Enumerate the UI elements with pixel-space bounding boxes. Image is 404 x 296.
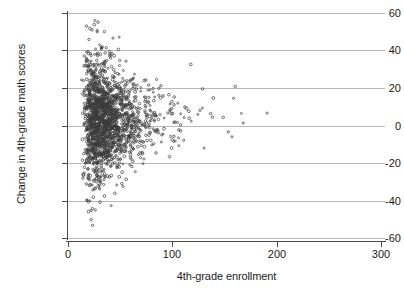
y-tick-mark-20 xyxy=(62,88,68,89)
y-tick-mark-60 xyxy=(62,13,68,14)
y-axis-title: Change in 4th-grade math scores xyxy=(15,9,27,239)
gridline-40 xyxy=(68,50,385,51)
gridline-0 xyxy=(68,126,385,127)
y-tick-label-0: 0 xyxy=(343,121,401,132)
x-tick-mark-200 xyxy=(277,242,278,247)
x-tick-label-200: 200 xyxy=(254,248,300,260)
x-tick-label-300: 300 xyxy=(358,248,404,260)
x-tick-label-0: 0 xyxy=(45,248,91,260)
x-tick-mark-100 xyxy=(172,242,173,247)
x-tick-label-100: 100 xyxy=(149,248,195,260)
y-tick-mark-neg20 xyxy=(62,163,68,164)
gridline-60 xyxy=(68,13,385,14)
y-tick-label-20: 20 xyxy=(343,83,401,94)
x-axis-title: 4th-grade enrollment xyxy=(68,270,385,282)
y-tick-mark-40 xyxy=(62,50,68,51)
gridline-neg20 xyxy=(68,163,385,164)
y-tick-mark-neg40 xyxy=(62,201,68,202)
y-tick-label-40: 40 xyxy=(343,45,401,56)
y-tick-label-neg20: -20 xyxy=(343,158,401,169)
x-axis-line xyxy=(66,241,386,242)
y-tick-label-neg60: -60 xyxy=(343,233,401,244)
y-tick-label-60: 60 xyxy=(343,8,401,19)
y-tick-mark-neg60 xyxy=(62,238,68,239)
gridline-neg60 xyxy=(68,238,385,239)
plot-area xyxy=(68,13,385,238)
gridline-neg40 xyxy=(68,201,385,202)
x-tick-mark-300 xyxy=(381,242,382,247)
y-tick-label-neg40: -40 xyxy=(343,196,401,207)
x-tick-mark-0 xyxy=(68,242,69,247)
gridline-20 xyxy=(68,88,385,89)
y-tick-mark-0 xyxy=(62,126,68,127)
